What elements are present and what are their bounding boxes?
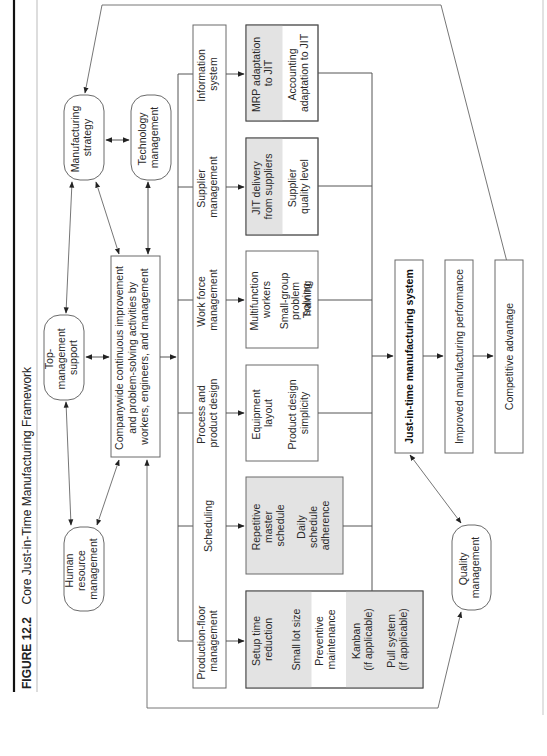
node-competitive-advantage: Competitive advantage <box>495 260 523 453</box>
figure-caption: FIGURE 12.2 Core Just-in-Time Manufactur… <box>14 0 37 692</box>
arrow-strategy-companywide <box>96 182 119 254</box>
figure-number: FIGURE 12.2 Core Just-in-Time Manufactur… <box>17 366 34 689</box>
practice-production-floor-management: Setup time reduction Small lot size Prev… <box>246 591 423 688</box>
node-top-management-support: Top- management support <box>43 315 84 400</box>
jit-framework-diagram: FIGURE 12.2 Core Just-in-Time Manufactur… <box>0 0 547 756</box>
svg-text:Setup time reduction: Setup time reduction <box>250 613 274 666</box>
node-manufacturing-strategy: Manufacturing strategy <box>64 95 104 180</box>
svg-text:Pull system (if applicab: Pull system (if applicable) <box>385 608 409 670</box>
node-technology-management: Technology management <box>131 95 171 180</box>
svg-text:Small lot size: Small lot size <box>290 608 302 670</box>
arrow-hr-companywide <box>97 460 119 525</box>
svg-text:Improved manufacturing perform: Improved manufacturing performance <box>453 269 465 444</box>
function-scheduling: Scheduling <box>202 500 214 552</box>
svg-text:Training: Training <box>301 281 313 319</box>
node-quality-management: Quality management <box>452 525 491 610</box>
arrow-topmgmt-hr <box>66 402 71 525</box>
svg-text:Technology management: Technology management <box>136 107 160 168</box>
svg-text:Supplier quality level: Supplier quality level <box>286 159 310 214</box>
practice-scheduling: Repetitive master schedule Daily schedul… <box>246 477 343 574</box>
functions-column: Information system Supplier management W… <box>193 25 226 688</box>
practice-information-system: MRP adaptation to JIT Accounting adaptat… <box>246 25 318 121</box>
node-human-resource-management: Human resource management <box>63 527 104 611</box>
practice-supplier-management: JIT delivery from suppliers Supplier qua… <box>246 138 318 235</box>
function-production-floor-management: Production-floor management <box>195 602 219 679</box>
function-process-product-design: Process and product design <box>195 378 219 447</box>
node-companywide-improvement: Companywide continuous improvement and p… <box>111 256 160 457</box>
node-improved-performance: Improved manufacturing performance <box>445 260 473 453</box>
svg-text:Companywide continuous improve: Companywide continuous improvement and p… <box>113 263 150 450</box>
svg-text:Just-in-time manufacturing sys: Just-in-time manufacturing system <box>403 269 415 443</box>
svg-text:Competitive advantage: Competitive advantage <box>503 303 515 411</box>
practice-process-product-design: Equipment layout Product design simplici… <box>246 365 318 461</box>
practice-work-force-management: Multifunction workers Small-group proble… <box>246 251 318 348</box>
function-work-force-management: Work force management <box>195 269 219 330</box>
svg-text:JIT delivery from suppli: JIT delivery from suppliers <box>250 154 274 220</box>
svg-text:Preventive maintenance: Preventive maintenance <box>313 609 337 669</box>
svg-text:Repetitive master: Repetitive master schedule <box>250 501 286 551</box>
arrow-quality-jit <box>410 455 461 523</box>
arrow-strategy-topmgmt <box>66 182 72 313</box>
node-jit-system: Just-in-time manufacturing system <box>395 260 423 453</box>
